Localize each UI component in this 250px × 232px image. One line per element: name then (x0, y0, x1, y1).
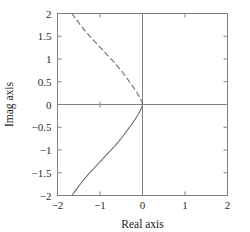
y-tick-label: −1.5 (32, 167, 52, 179)
x-tick-label: 2 (225, 199, 231, 211)
y-tick-label: 0.5 (38, 76, 52, 88)
complex-plane-plot: −2−1012 −2−1.5−1−0.500.511.52 Real axis … (0, 0, 250, 232)
y-tick-label: −2 (40, 190, 52, 202)
x-tick-labels: −2−1012 (52, 199, 231, 211)
x-tick-label: −1 (94, 199, 106, 211)
x-tick-label: 0 (140, 199, 146, 211)
x-axis-title: Real axis (121, 218, 164, 230)
y-axis-title: Imag axis (3, 81, 16, 127)
y-tick-label: 0 (46, 99, 52, 111)
plot-svg: −2−1012 −2−1.5−1−0.500.511.52 Real axis … (0, 0, 250, 232)
x-tick-label: −2 (52, 199, 64, 211)
y-tick-label: 2 (46, 8, 52, 20)
y-tick-label: −0.5 (32, 121, 52, 133)
y-tick-label: −1 (40, 144, 52, 156)
y-tick-labels: −2−1.5−1−0.500.511.52 (32, 8, 52, 202)
x-tick-label: 1 (182, 199, 188, 211)
y-tick-label: 1.5 (38, 30, 52, 42)
y-tick-label: 1 (46, 53, 52, 65)
